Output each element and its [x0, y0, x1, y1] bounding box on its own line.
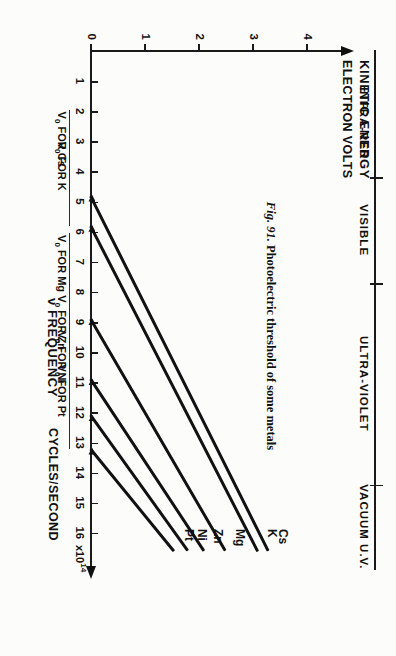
energy-tick — [198, 44, 200, 51]
line-label-mg: Mg — [233, 529, 247, 546]
figure-caption-text: Photoelectric threshold of some metals — [263, 245, 277, 450]
frequency-tick-label: 13 — [74, 436, 86, 449]
frequency-tick-label: 5 — [74, 198, 86, 205]
spectrum-band-label: VISIBLE — [358, 204, 370, 256]
frequency-tick-label: 3 — [74, 138, 86, 145]
frequency-tick-label: 2 — [74, 108, 86, 115]
frequency-tick — [92, 443, 98, 445]
energy-tick-label: 4 — [302, 22, 314, 40]
figure-page: INFRA-REDVISIBLEULTRA-VIOLETVACUUM U.V. … — [0, 0, 396, 656]
rotated-plot-container: INFRA-REDVISIBLEULTRA-VIOLETVACUUM U.V. … — [38, 0, 378, 598]
energy-tick — [252, 44, 254, 51]
frequency-tick — [92, 412, 98, 414]
frequency-tick-label: 11 — [74, 376, 86, 388]
energy-tick-label: 1 — [140, 22, 152, 40]
frequency-tick-label: 10 — [74, 346, 86, 359]
energy-tick-label: 3 — [248, 22, 260, 40]
frequency-tick — [92, 352, 98, 354]
frequency-tick-label: 6 — [74, 228, 86, 235]
frequency-tick-label: 1 — [74, 78, 86, 85]
frequency-tick — [92, 262, 98, 264]
spectrum-band-label: ULTRA-VIOLET — [358, 336, 370, 431]
frequency-tick — [92, 473, 98, 475]
spectrum-band-divider — [370, 485, 383, 487]
frequency-tick — [92, 292, 98, 294]
frequency-tick — [92, 171, 98, 173]
energy-tick — [91, 44, 93, 51]
energy-tick — [306, 44, 308, 51]
figure-number: Fig. 91. — [263, 202, 277, 242]
frequency-axis-units: CYCLES/SECOND — [46, 428, 60, 541]
photoelectric-line-ni — [89, 415, 188, 552]
frequency-axis — [90, 50, 92, 570]
threshold-leader-pt — [69, 363, 70, 449]
frequency-tick — [92, 81, 98, 83]
threshold-label-pt: V0 FOR Pt — [53, 365, 68, 417]
frequency-tick-label: 4 — [74, 168, 86, 175]
figure-caption: Fig. 91. Photoelectric threshold of some… — [262, 202, 277, 450]
line-label-k: K — [265, 529, 279, 538]
plot-stage: INFRA-REDVISIBLEULTRA-VIOLETVACUUM U.V. … — [38, 0, 378, 598]
frequency-tick — [92, 141, 98, 143]
line-label-zn: Zn — [211, 529, 225, 544]
energy-axis — [90, 50, 342, 52]
energy-tick — [144, 44, 146, 51]
frequency-tick-label: 14 — [74, 466, 86, 479]
energy-tick-label: 2 — [194, 22, 206, 40]
photoelectric-line-cs — [89, 195, 270, 552]
frequency-tick-label: 15 — [74, 496, 86, 509]
energy-axis-arrowhead — [341, 46, 354, 56]
line-label-ni: Ni — [195, 529, 209, 541]
frequency-exponent-label: x1014 — [74, 545, 88, 572]
line-label-pt: Pt — [182, 529, 196, 541]
spectrum-band-label: VACUUM U.V. — [358, 484, 370, 569]
frequency-tick-label: 12 — [74, 406, 86, 419]
threshold-leader-k — [69, 140, 70, 226]
energy-axis-title: KINETIC ENERGY — [357, 60, 372, 179]
spectrum-band-axis — [374, 50, 376, 570]
frequency-tick-label: 9 — [74, 319, 86, 326]
frequency-tick-label: 16 — [74, 526, 86, 539]
frequency-tick — [92, 111, 98, 113]
threshold-label-mg: V0 FOR Mg — [53, 235, 68, 292]
energy-axis-units: ELECTRON VOLTS — [340, 60, 354, 179]
frequency-tick — [92, 503, 98, 505]
spectrum-band-divider — [370, 283, 383, 285]
frequency-tick-label: 8 — [74, 289, 86, 296]
threshold-label-k: V0 FOR K — [53, 142, 68, 191]
energy-tick-label: 0 — [86, 22, 98, 40]
photoelectric-line-zn — [89, 378, 205, 551]
frequency-tick — [92, 533, 98, 535]
photoelectric-line-pt — [89, 448, 175, 552]
frequency-tick-label: 7 — [74, 259, 86, 266]
